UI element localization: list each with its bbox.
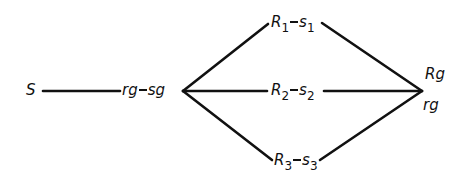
- node-branch2: R2s2: [271, 83, 315, 102]
- hub-connector: [139, 89, 147, 91]
- edge-hub-to-r3: [183, 91, 272, 160]
- node-sink-bottom: rg: [423, 98, 439, 113]
- node-branch3: R3s3: [274, 153, 318, 172]
- branch1-r-sub: 1: [281, 21, 289, 35]
- branch1-s-sub: 1: [307, 21, 315, 35]
- edge-s3-to-sink: [320, 91, 422, 160]
- branch2-s: s: [299, 81, 307, 99]
- source-label: S: [26, 81, 36, 99]
- branch3-s: s: [302, 151, 310, 169]
- branch2-connector: [290, 89, 298, 91]
- edge-s1-to-sink: [322, 23, 422, 91]
- edge-hub-to-r1: [183, 24, 268, 91]
- hub-left-label: rg: [122, 81, 138, 99]
- hub-right-label: sg: [148, 81, 165, 99]
- node-source: S: [26, 83, 36, 98]
- branch2-r: R: [271, 81, 281, 99]
- branch1-connector: [290, 21, 298, 23]
- branch2-r-sub: 2: [281, 89, 289, 103]
- sink-bottom-label: rg: [423, 96, 439, 114]
- branch2-s-sub: 2: [307, 89, 315, 103]
- branch3-r-sub: 3: [284, 159, 292, 173]
- branch3-s-sub: 3: [310, 159, 318, 173]
- sink-top-label: Rg: [425, 65, 445, 83]
- branch1-s: s: [299, 13, 307, 31]
- branch3-connector: [293, 159, 301, 161]
- node-hub: rgsg: [122, 83, 165, 98]
- node-branch1: R1s1: [271, 15, 315, 34]
- diagram-edges: [0, 0, 472, 193]
- branch3-r: R: [274, 151, 284, 169]
- node-sink-top: Rg: [425, 67, 445, 82]
- branch1-r: R: [271, 13, 281, 31]
